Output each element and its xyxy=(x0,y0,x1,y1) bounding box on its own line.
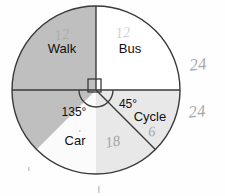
handwritten-note: 24 xyxy=(187,101,206,122)
figure-canvas: Walk Bus Cycle Car 135° 45° 12121862424 xyxy=(0,0,225,196)
angle-label-135: 135° xyxy=(62,105,87,119)
angle-label-45: 45° xyxy=(119,97,137,111)
handwritten-note: 12 xyxy=(53,25,71,43)
paper-speck xyxy=(79,130,81,132)
handwritten-note: 24 xyxy=(188,54,207,75)
handwritten-note: 12 xyxy=(115,24,132,42)
pie-chart-figure: Walk Bus Cycle Car 135° 45° 12121862424 xyxy=(0,0,225,196)
paper-speck xyxy=(98,186,100,193)
sector-label-walk: Walk xyxy=(48,41,77,56)
sector-label-cycle: Cycle xyxy=(134,109,167,124)
sector-label-car: Car xyxy=(65,133,87,148)
sector-label-bus: Bus xyxy=(119,41,142,56)
paper-speck xyxy=(28,167,30,171)
